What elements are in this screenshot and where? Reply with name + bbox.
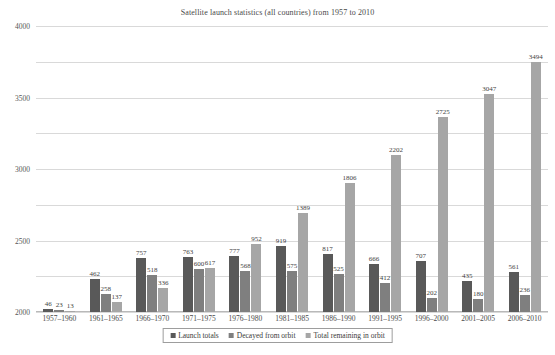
legend-swatch-icon	[306, 333, 311, 338]
bar-column: 462	[90, 26, 100, 312]
legend-item[interactable]: Total remaining in orbit	[306, 331, 385, 340]
bar-group: 4351803047	[455, 26, 502, 312]
legend-label: Decayed from orbit	[237, 331, 296, 340]
legend-item[interactable]: Decayed from orbit	[229, 331, 296, 340]
y-axis-tick-label: 4000	[0, 22, 36, 31]
bar[interactable]: 236	[520, 295, 530, 312]
bar[interactable]: 435	[462, 281, 472, 312]
bar-value-label: 707	[415, 253, 426, 260]
x-axis-tick-label: 1957–1960	[36, 314, 83, 323]
bar-value-label: 2725	[436, 109, 450, 116]
bar[interactable]: 777	[229, 256, 239, 312]
bar-value-label: 817	[322, 246, 333, 253]
bar-group: 777568952	[222, 26, 269, 312]
legend-item[interactable]: Launch totals	[170, 331, 219, 340]
bar-value-label: 46	[45, 301, 52, 308]
x-axis-tick-label: 1991–1995	[362, 314, 409, 323]
bar-column: 412	[380, 26, 390, 312]
bar[interactable]: 23	[54, 310, 64, 312]
x-axis-tick-label: 1986–1990	[315, 314, 362, 323]
x-axis-tick-label: 1966–1970	[129, 314, 176, 323]
bar-column: 13	[65, 26, 75, 312]
bar-column: 2725	[438, 26, 448, 312]
bar-column: 180	[473, 26, 483, 312]
bar[interactable]: 1806	[345, 183, 355, 312]
bar-value-label: 202	[426, 290, 437, 297]
bar-column: 137	[112, 26, 122, 312]
bar[interactable]: 600	[194, 269, 204, 312]
bar[interactable]: 2725	[438, 117, 448, 312]
bar-value-label: 412	[380, 275, 391, 282]
bar-column: 1389	[298, 26, 308, 312]
bar[interactable]: 568	[240, 271, 250, 312]
bar[interactable]: 137	[112, 302, 122, 312]
bar-column: 617	[205, 26, 215, 312]
bar-group: 7072022725	[408, 26, 455, 312]
bar-column: 258	[101, 26, 111, 312]
x-axis-labels: 1957–19601961–19651966–19701971–19751976…	[36, 314, 548, 323]
plot-area: 05001000150020002500300035004000 4623134…	[36, 26, 548, 312]
bar[interactable]: 707	[416, 261, 426, 312]
y-axis-tick-label: 3000	[0, 165, 36, 174]
bar[interactable]: 46	[43, 309, 53, 312]
bar-column: 666	[369, 26, 379, 312]
bar[interactable]: 919	[276, 246, 286, 312]
bar[interactable]: 817	[323, 254, 333, 312]
bar-value-label: 3494	[529, 54, 543, 61]
chart-legend: Launch totalsDecayed from orbitTotal rem…	[162, 328, 393, 343]
bar-value-label: 666	[369, 256, 380, 263]
bar-value-label: 1806	[343, 175, 357, 182]
bar[interactable]: 412	[380, 283, 390, 312]
y-axis-tick-label: 2500	[0, 236, 36, 245]
bar-value-label: 180	[473, 291, 484, 298]
bar-column: 435	[462, 26, 472, 312]
bar[interactable]: 3494	[531, 62, 541, 312]
chart-container: Satellite launch statistics (all countri…	[0, 0, 555, 355]
bar-column: 757	[136, 26, 146, 312]
legend-label: Launch totals	[178, 331, 219, 340]
bar[interactable]: 525	[334, 274, 344, 312]
bar[interactable]: 617	[205, 268, 215, 312]
x-axis-tick-label: 2006–2010	[501, 314, 548, 323]
bar-column: 3494	[531, 26, 541, 312]
bar[interactable]: 202	[427, 298, 437, 312]
x-axis-tick-label: 1961–1965	[83, 314, 130, 323]
bar-value-label: 777	[229, 248, 240, 255]
bar[interactable]: 13	[65, 311, 75, 312]
bar[interactable]: 666	[369, 264, 379, 312]
bar-group: 462313	[36, 26, 83, 312]
bar-value-label: 518	[147, 267, 158, 274]
bar[interactable]: 518	[147, 275, 157, 312]
bar-column: 952	[251, 26, 261, 312]
bar[interactable]: 3047	[484, 94, 494, 312]
bar[interactable]: 180	[473, 299, 483, 312]
gridline: 0	[36, 312, 548, 313]
bar[interactable]: 258	[101, 294, 111, 312]
bar-column: 568	[240, 26, 250, 312]
bar[interactable]: 1389	[298, 213, 308, 312]
bar-group: 6664122202	[362, 26, 409, 312]
bar[interactable]: 763	[183, 257, 193, 312]
bar-value-label: 617	[205, 260, 216, 267]
bar[interactable]: 561	[509, 272, 519, 312]
bar[interactable]: 462	[90, 279, 100, 312]
x-axis-tick-label: 2001–2005	[455, 314, 502, 323]
bar-value-label: 13	[67, 303, 74, 310]
bar[interactable]: 336	[158, 288, 168, 312]
bar-column: 2202	[391, 26, 401, 312]
bar-value-label: 3047	[482, 86, 496, 93]
bar-value-label: 525	[333, 266, 344, 273]
bar-value-label: 952	[251, 236, 262, 243]
bar-value-label: 568	[240, 263, 251, 270]
bar[interactable]: 757	[136, 258, 146, 312]
bar[interactable]: 2202	[391, 155, 401, 312]
bar[interactable]: 952	[251, 244, 261, 312]
bar-column: 336	[158, 26, 168, 312]
bar-column: 707	[416, 26, 426, 312]
x-axis-tick-label: 1976–1980	[222, 314, 269, 323]
bar-column: 919	[276, 26, 286, 312]
bar-value-label: 137	[112, 294, 123, 301]
bar-column: 236	[520, 26, 530, 312]
bar-value-label: 236	[519, 287, 530, 294]
bar[interactable]: 575	[287, 271, 297, 312]
